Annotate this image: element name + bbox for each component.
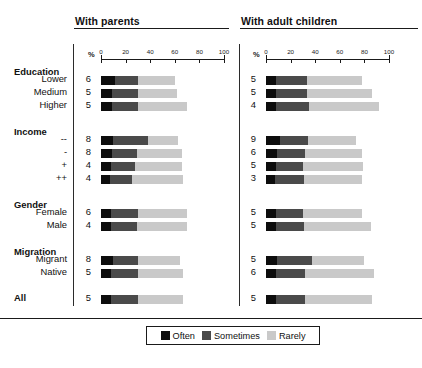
bar-segment-sometimes xyxy=(111,209,138,218)
bar-parents- xyxy=(101,136,178,145)
panel-title-with-parents: With parents xyxy=(75,15,140,27)
bar-segment-often xyxy=(101,89,112,98)
bar-segment-sometimes xyxy=(276,76,307,85)
bar-segment-often xyxy=(266,295,276,304)
value-label-parents-female: 6 xyxy=(71,206,91,217)
bar-segment-sometimes xyxy=(277,149,305,158)
bar-children- xyxy=(266,149,362,158)
bar-parents- xyxy=(101,175,183,184)
row-label-higher: Higher xyxy=(39,99,67,110)
bar-segment-often xyxy=(266,136,280,145)
bar-segment-often xyxy=(266,102,276,111)
value-label-parents-: 4 xyxy=(71,172,91,183)
axis-tick-label-left-20: 20 xyxy=(122,48,129,55)
bar-parents-lower xyxy=(101,76,175,85)
bar-segment-sometimes xyxy=(276,222,304,231)
bar-segment-rarely xyxy=(148,136,179,145)
axis-tick-label-left-0: 0 xyxy=(99,48,102,55)
bar-parents-higher xyxy=(101,102,187,111)
bar-children- xyxy=(266,162,363,171)
bar-segment-rarely xyxy=(305,269,374,278)
bar-segment-often xyxy=(266,256,277,265)
row-label-male: Male xyxy=(47,219,67,230)
axis-tick-label-right-0: 0 xyxy=(264,48,267,55)
legend-label-sometimes: Sometimes xyxy=(214,331,260,341)
row-label-minus: - xyxy=(64,146,67,157)
axis-line xyxy=(101,59,224,60)
bar-segment-rarely xyxy=(307,76,362,85)
bar-segment-sometimes xyxy=(280,136,308,145)
bar-parents-migrant xyxy=(101,256,180,265)
row-label-minusminus: -- xyxy=(61,133,67,144)
bar-segment-rarely xyxy=(307,89,372,98)
row-label-medium: Medium xyxy=(34,86,67,97)
bar-segment-often xyxy=(101,102,112,111)
bar-segment-sometimes xyxy=(277,256,311,265)
bar-segment-sometimes xyxy=(276,295,306,304)
bar-segment-often xyxy=(101,269,111,278)
axis-tick-label-right-80: 80 xyxy=(361,48,368,55)
bar-segment-often xyxy=(101,162,111,171)
axis-tick-right-40 xyxy=(315,59,316,63)
bar-segment-sometimes xyxy=(113,136,147,145)
value-label-children-native: 6 xyxy=(236,266,256,277)
bar-segment-sometimes xyxy=(112,102,138,111)
bar-segment-rarely xyxy=(138,295,184,304)
bar-segment-rarely xyxy=(312,256,365,265)
bar-segment-rarely xyxy=(138,269,184,278)
value-label-children-male: 5 xyxy=(236,219,256,230)
bar-parents-native xyxy=(101,269,183,278)
bar-parents- xyxy=(101,149,182,158)
bar-segment-rarely xyxy=(138,89,177,98)
axis-tick-right-0 xyxy=(266,55,267,63)
bar-segment-rarely xyxy=(303,162,363,171)
bar-segment-often xyxy=(266,149,277,158)
x-axis-right: 020406080100 xyxy=(266,50,389,64)
row-label-plusplus: ++ xyxy=(56,172,67,183)
axis-tick-left-100 xyxy=(224,55,225,63)
bar-segment-often xyxy=(266,76,276,85)
bar-segment-often xyxy=(266,222,276,231)
bar-segment-sometimes xyxy=(276,269,306,278)
value-label-parents-: 4 xyxy=(71,159,91,170)
value-label-children-: 9 xyxy=(236,133,256,144)
axis-tick-left-40 xyxy=(150,59,151,63)
bar-parents-medium xyxy=(101,89,177,98)
bar-segment-rarely xyxy=(137,222,187,231)
bar-segment-rarely xyxy=(138,76,175,85)
bar-segment-often xyxy=(101,76,115,85)
panel-title-with-adult-children: With adult children xyxy=(241,15,337,27)
bar-segment-often xyxy=(266,162,276,171)
bar-segment-often xyxy=(101,136,113,145)
bar-segment-sometimes xyxy=(112,89,138,98)
value-label-children-: 6 xyxy=(236,146,256,157)
legend-item-rarely: Rarely xyxy=(267,331,306,341)
axis-tick-label-left-80: 80 xyxy=(196,48,203,55)
bar-segment-often xyxy=(101,209,111,218)
title-rule-left xyxy=(74,28,229,29)
axis-tick-left-0 xyxy=(101,55,102,63)
axis-tick-label-left-60: 60 xyxy=(171,48,178,55)
bar-children-native xyxy=(266,269,374,278)
bar-segment-rarely xyxy=(137,149,183,158)
axis-unit-left: % xyxy=(88,50,95,59)
value-label-children-female: 5 xyxy=(236,206,256,217)
bar-segment-sometimes xyxy=(276,162,303,171)
bar-segment-sometimes xyxy=(275,175,305,184)
bar-segment-rarely xyxy=(309,102,379,111)
value-label-parents-all: 5 xyxy=(71,292,91,303)
legend-item-sometimes: Sometimes xyxy=(202,331,260,341)
bar-children- xyxy=(266,136,356,145)
row-label-female: Female xyxy=(36,206,67,217)
legend-swatch-sometimes xyxy=(202,331,211,340)
bar-segment-rarely xyxy=(308,136,356,145)
legend-label-rarely: Rarely xyxy=(279,331,306,341)
bar-children-medium xyxy=(266,89,372,98)
bar-children-all xyxy=(266,295,372,304)
bottom-rule xyxy=(0,318,422,319)
axis-tick-right-20 xyxy=(291,59,292,63)
row-label-migrant: Migrant xyxy=(36,253,67,264)
bar-segment-rarely xyxy=(305,295,371,304)
bar-children-female xyxy=(266,209,362,218)
axis-tick-right-60 xyxy=(340,59,341,63)
